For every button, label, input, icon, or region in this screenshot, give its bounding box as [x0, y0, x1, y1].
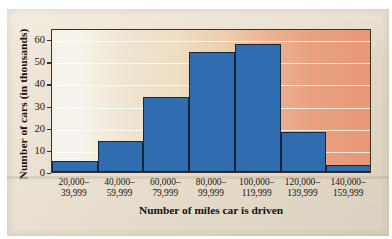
y-axis-tick-mark	[47, 129, 51, 130]
plot-area	[51, 29, 371, 173]
y-axis-tick-label: 40	[15, 79, 45, 90]
x-axis-title: Number of miles car is driven	[52, 204, 370, 216]
y-axis-tick-mark	[47, 84, 51, 85]
bar	[98, 141, 144, 172]
y-axis-tick-mark	[47, 62, 51, 63]
x-axis-tick-label-line: 159,999	[319, 188, 377, 199]
histogram-figure: Number of cars (in thousands) 0102030405…	[0, 0, 392, 239]
y-axis-tick-mark	[47, 151, 51, 152]
x-axis-tick-label: 140,000–159,999	[319, 177, 377, 200]
bar	[52, 161, 98, 172]
bar	[326, 165, 371, 172]
y-axis-tick-label: 10	[15, 146, 45, 157]
bar	[235, 44, 281, 172]
bar-series	[52, 30, 370, 172]
y-axis-tick-label: 0	[15, 168, 45, 179]
y-axis-tick-label: 60	[15, 35, 45, 46]
y-axis-tick-mark	[47, 173, 51, 174]
y-axis-tick-label: 50	[15, 57, 45, 68]
y-axis-tick-mark	[47, 107, 51, 108]
bar	[143, 97, 189, 172]
x-axis-tick-label-line: 140,000–	[319, 177, 377, 188]
y-axis-tick-mark	[47, 40, 51, 41]
y-axis-tick-label: 20	[15, 124, 45, 135]
y-axis-tick-label: 30	[15, 102, 45, 113]
bar	[281, 132, 327, 172]
bar	[189, 52, 235, 172]
